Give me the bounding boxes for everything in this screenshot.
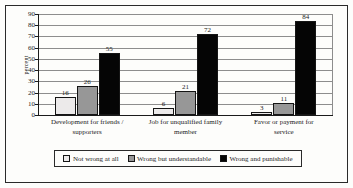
bar: 72 <box>197 34 218 115</box>
x-axis-category-label: Favor or payment forservice <box>235 118 333 137</box>
x-axis-category-label: Job for unqualified familymember <box>136 118 234 137</box>
y-axis-tick-label: 40 <box>28 66 35 74</box>
y-axis-tick-label: 0 <box>32 111 36 119</box>
bar-value-label: 11 <box>280 95 287 103</box>
bar: 6 <box>153 108 174 115</box>
y-axis-tick-label: 70 <box>28 32 35 40</box>
bar-value-label: 16 <box>62 89 69 97</box>
legend-item-label: Wrong and punishable <box>229 155 292 163</box>
bar-value-label: 84 <box>302 13 309 21</box>
bar: 55 <box>99 53 120 115</box>
x-axis-category-label: Development for friends /supporters <box>38 118 136 137</box>
x-axis-category-labels: Development for friends /supportersJob f… <box>38 118 333 144</box>
legend-swatch-icon <box>220 155 227 162</box>
legend-swatch-icon <box>128 155 135 162</box>
legend-item[interactable]: Wrong and punishable <box>220 155 293 163</box>
bar: 11 <box>273 103 294 115</box>
bar: 3 <box>251 112 272 115</box>
category-label-line: supporters <box>38 128 136 138</box>
bars-layer: 1626556217231184 <box>38 14 333 115</box>
legend-item-label: Not wrong at all <box>73 155 119 163</box>
bar-value-label: 21 <box>182 83 189 91</box>
y-axis-tick-label: 30 <box>28 77 35 85</box>
bar-value-label: 3 <box>260 104 264 112</box>
bar-group: 31184 <box>235 14 333 115</box>
bar-value-label: 26 <box>84 78 91 86</box>
y-axis-tick-label: 20 <box>28 89 35 97</box>
y-axis-tick-label: 80 <box>28 21 35 29</box>
bar: 16 <box>55 97 76 115</box>
category-label-line: Job for unqualified family <box>136 118 234 128</box>
legend-item[interactable]: Wrong but understandable <box>128 155 211 163</box>
y-axis-tick-label: 10 <box>28 100 35 108</box>
legend-item[interactable]: Not wrong at all <box>63 155 118 163</box>
bar-value-label: 72 <box>204 26 211 34</box>
bar-value-label: 6 <box>162 100 166 108</box>
chart-legend: Not wrong at allWrong but understandable… <box>54 150 302 167</box>
y-axis-tick-label: 60 <box>28 44 35 52</box>
category-label-line: Favor or payment for <box>235 118 333 128</box>
bar-chart-figure: percent 0102030405060708090 162655621723… <box>0 0 353 188</box>
category-label-line: service <box>235 128 333 138</box>
legend-swatch-icon <box>63 155 70 162</box>
gridline <box>38 115 333 116</box>
bar-group: 62172 <box>136 14 234 115</box>
bar-group: 162655 <box>38 14 136 115</box>
legend-item-label: Wrong but understandable <box>137 155 211 163</box>
plot-area: percent 0102030405060708090 162655621723… <box>38 14 333 115</box>
bar: 26 <box>77 86 98 115</box>
category-label-line: Development for friends / <box>38 118 136 128</box>
bar: 21 <box>175 91 196 115</box>
y-axis-tick-label: 90 <box>28 10 35 18</box>
y-axis-tick-label: 50 <box>28 55 35 63</box>
bar: 84 <box>295 21 316 115</box>
bar-value-label: 55 <box>106 45 113 53</box>
category-label-line: member <box>136 128 234 138</box>
